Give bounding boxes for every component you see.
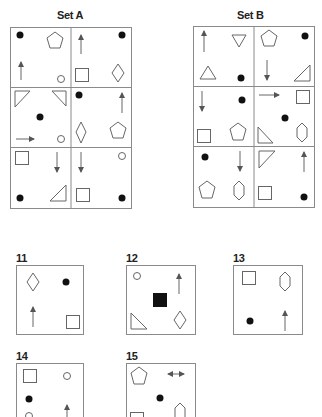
- diamond-icon: [27, 273, 39, 291]
- set-b-cell-1: [200, 31, 246, 82]
- square-icon: [24, 370, 37, 383]
- answer-15-label: 15: [126, 350, 138, 362]
- square-icon: [77, 189, 90, 202]
- answer-12-label: 12: [126, 252, 138, 264]
- diamond-icon: [174, 311, 186, 329]
- filled-dot-icon: [239, 97, 246, 104]
- set-a-cell-5: [16, 152, 67, 202]
- hexagon-icon: [175, 403, 185, 417]
- right-triangle-icon: [52, 91, 66, 106]
- hexagon-icon: [234, 181, 244, 200]
- filled-dot-icon: [37, 114, 44, 121]
- answer-13-box: [234, 266, 303, 335]
- filled-dot-icon: [301, 194, 308, 201]
- square-icon: [198, 130, 211, 143]
- filled-dot-icon: [119, 32, 126, 39]
- open-circle-icon: [134, 273, 141, 280]
- answer-13-label: 13: [233, 252, 245, 264]
- filled-dot-icon: [202, 154, 209, 161]
- open-circle-icon: [119, 153, 126, 160]
- square-icon: [131, 413, 144, 417]
- square-icon: [67, 316, 80, 329]
- hexagon-icon: [280, 272, 290, 291]
- square-icon: [259, 187, 272, 200]
- pentagon-icon: [131, 367, 147, 384]
- set-b-cell-6: [259, 151, 308, 201]
- puzzle-figure: [0, 0, 322, 417]
- answer-14-box: [17, 364, 84, 417]
- pentagon-icon: [230, 123, 246, 140]
- open-circle-icon: [26, 413, 33, 417]
- diamond-icon: [112, 64, 124, 82]
- filled-square-icon: [153, 293, 167, 307]
- square-icon: [76, 69, 89, 82]
- right-triangle-icon: [131, 313, 147, 329]
- diamond-icon: [76, 122, 86, 143]
- set-b-grid: [194, 27, 315, 208]
- open-circle-icon: [64, 373, 71, 380]
- filled-dot-icon: [157, 395, 164, 402]
- filled-dot-icon: [119, 195, 126, 202]
- square-icon: [16, 152, 29, 165]
- right-triangle-icon: [294, 65, 310, 81]
- filled-dot-icon: [247, 318, 254, 325]
- set-b-cell-4: [258, 91, 310, 144]
- pentagon-icon: [199, 181, 215, 198]
- answer-12-box: [127, 266, 196, 335]
- filled-dot-icon: [302, 33, 309, 40]
- set-a-grid: [11, 28, 132, 209]
- answer-11-box: [17, 266, 84, 335]
- right-triangle-icon: [259, 151, 275, 168]
- triangle-icon: [200, 66, 216, 79]
- set-a-cell-3: [15, 91, 66, 143]
- filled-dot-icon: [238, 75, 245, 82]
- pentagon-icon: [261, 30, 277, 46]
- right-triangle-icon: [15, 91, 30, 107]
- set-b-cell-2: [261, 30, 310, 81]
- set-b-cell-3: [198, 91, 247, 143]
- set-a-cell-4: [76, 92, 127, 144]
- set-b-cell-5: [199, 151, 244, 200]
- filled-dot-icon: [76, 92, 83, 99]
- pentagon-icon: [110, 122, 126, 138]
- set-a-cell-2: [76, 32, 126, 83]
- answer-15-box: [127, 364, 196, 417]
- square-icon: [243, 272, 256, 285]
- right-triangle-icon: [50, 185, 66, 201]
- right-triangle-icon: [258, 127, 273, 143]
- filled-dot-icon: [17, 32, 24, 39]
- filled-dot-icon: [17, 195, 24, 202]
- filled-dot-icon: [63, 279, 70, 286]
- set-a-cell-1: [17, 32, 65, 83]
- hexagon-icon: [297, 123, 307, 142]
- open-circle-icon: [58, 136, 65, 143]
- filled-dot-icon: [26, 396, 33, 403]
- square-icon: [297, 91, 310, 104]
- set-a-cell-6: [77, 152, 126, 202]
- answer-14-label: 14: [16, 350, 28, 362]
- down-triangle-icon: [232, 35, 246, 47]
- answer-11-label: 11: [16, 252, 27, 264]
- open-circle-icon: [58, 76, 65, 83]
- filled-dot-icon: [282, 115, 289, 122]
- pentagon-icon: [47, 32, 63, 48]
